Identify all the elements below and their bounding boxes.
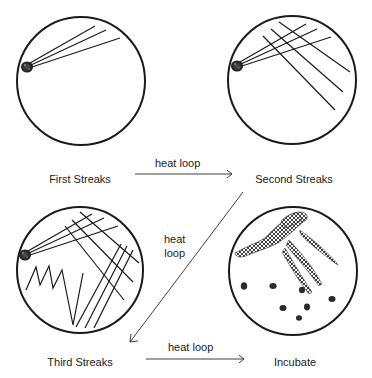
plate-label-second-streaks: Second Streaks [255, 173, 333, 186]
streak-plate-diagram: First Streaks Second Streaks Third Strea… [0, 0, 372, 378]
isolated-streak-trails [282, 230, 338, 294]
first-streak-lines [30, 26, 120, 67]
inoculum-spot-icon [19, 250, 31, 261]
inoculum-spot-icon [231, 61, 243, 72]
arrow-label-heat-loop-1: heat loop [155, 157, 200, 170]
plate-label-first-streaks: First Streaks [49, 173, 111, 186]
inoculum-spot-icon [21, 62, 33, 73]
arrow-third-to-incubate [146, 355, 244, 363]
petri-dish-icon [228, 16, 356, 144]
plate-incubate [229, 207, 357, 335]
diagram-canvas [0, 0, 372, 378]
second-streak-lines [65, 212, 139, 300]
arrow-label-line-2: loop [164, 246, 185, 260]
petri-dish-icon [17, 207, 143, 333]
petri-dish-icon [17, 17, 145, 145]
plate-first-streaks [17, 17, 145, 145]
zigzag-streak [26, 266, 83, 325]
arrow-first-to-second [135, 170, 232, 178]
arrow-label-heat-loop-2: heat loop [164, 232, 185, 260]
arrow-label-heat-loop-3: heat loop [168, 341, 213, 354]
plate-label-incubate: Incubate [274, 356, 316, 369]
arrow-second-to-third [130, 192, 243, 342]
plate-label-third-streaks: Third Streaks [47, 356, 112, 369]
plate-third-streaks [17, 207, 143, 333]
plate-second-streaks [228, 16, 356, 144]
bacterial-colonies [241, 282, 336, 321]
arrow-label-line-1: heat [164, 232, 185, 246]
